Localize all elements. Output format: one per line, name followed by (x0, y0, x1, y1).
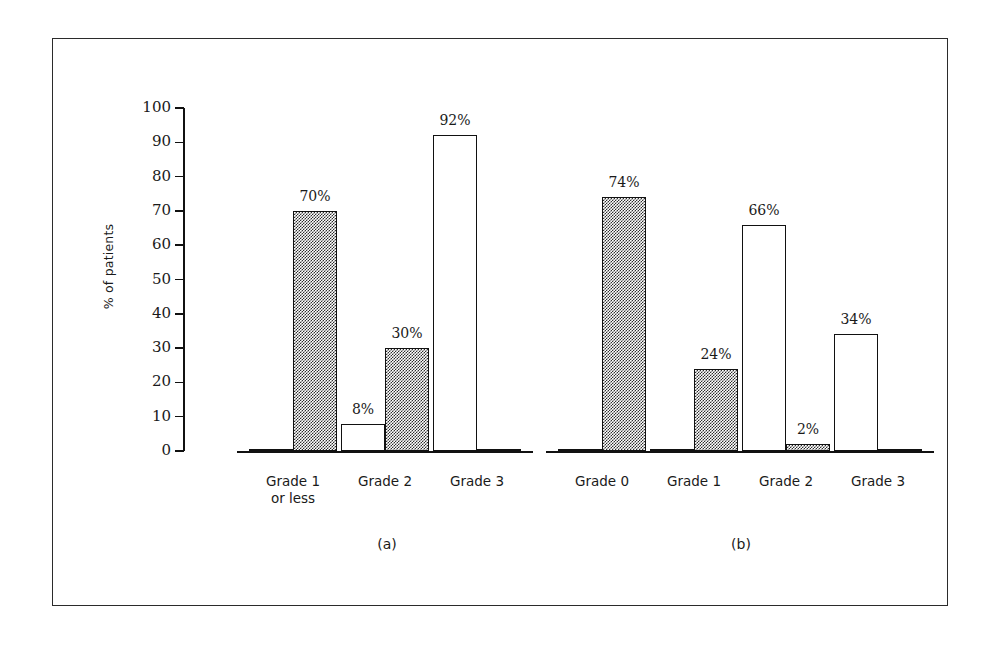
bar-open (433, 135, 477, 451)
bar-value-label: 8% (352, 402, 374, 416)
y-axis-tick-label-wrap: 100 (119, 108, 171, 109)
y-axis-tick (175, 313, 184, 315)
bar-value-label: 2% (797, 422, 819, 436)
bar-value-label: 34% (840, 312, 871, 326)
bar-open (742, 225, 786, 451)
y-axis-tick-label: 60 (127, 237, 171, 252)
y-axis-tick-label: 90 (127, 134, 171, 149)
y-axis-tick-label: 100 (127, 100, 171, 115)
y-axis-tick-label-wrap: 70 (119, 211, 171, 212)
y-axis-tick-label-wrap: 30 (119, 348, 171, 349)
plot-area: 1009080706050403020100 % of patients 70%… (53, 39, 949, 607)
bar-value-label: 66% (748, 203, 779, 217)
bar-shaded (786, 444, 830, 451)
y-axis-tick-label-wrap: 60 (119, 245, 171, 246)
y-axis-tick-label: 10 (127, 409, 171, 424)
bar-shaded (477, 449, 521, 451)
y-axis-tick (175, 107, 184, 109)
y-axis-tick-label-wrap: 0 (119, 451, 171, 452)
y-axis-tick-label-wrap: 50 (119, 280, 171, 281)
bar-value-label: 30% (391, 326, 422, 340)
y-axis-tick (175, 347, 184, 349)
y-axis-tick (175, 450, 184, 452)
y-axis-tick (175, 416, 184, 418)
y-axis-tick-label: 40 (127, 306, 171, 321)
figure-frame: 1009080706050403020100 % of patients 70%… (52, 38, 948, 606)
bar-shaded (293, 211, 337, 451)
bar-value-label: 24% (700, 347, 731, 361)
y-axis-tick-label-wrap: 10 (119, 417, 171, 418)
y-axis-tick-label: 20 (127, 374, 171, 389)
bar-value-label: 92% (439, 113, 470, 127)
y-axis-tick-label-wrap: 40 (119, 314, 171, 315)
bar-value-label: 74% (608, 175, 639, 189)
y-axis-tick (175, 142, 184, 144)
bar-value-label: 70% (299, 189, 330, 203)
bar-open (558, 449, 602, 451)
y-axis-tick (175, 279, 184, 281)
bar-shaded (385, 348, 429, 451)
y-axis-tick-label: 80 (127, 169, 171, 184)
x-axis-category-label: Grade 3 (407, 473, 547, 490)
y-axis-tick (175, 244, 184, 246)
group-baseline (822, 451, 934, 453)
panel-label: (b) (701, 536, 781, 552)
y-axis-tick-label: 70 (127, 203, 171, 218)
bar-open (249, 449, 293, 451)
y-axis-tick-label-wrap: 90 (119, 142, 171, 143)
bar-shaded (878, 449, 922, 451)
y-axis-tick (175, 176, 184, 178)
x-axis-category-label: Grade 3 (808, 473, 948, 490)
y-axis-tick-label: 0 (127, 443, 171, 458)
y-axis-tick-label: 50 (127, 272, 171, 287)
group-baseline (421, 451, 533, 453)
y-axis-tick (175, 210, 184, 212)
panel-label: (a) (347, 536, 427, 552)
y-axis-tick-label-wrap: 80 (119, 177, 171, 178)
y-axis-tick-label-wrap: 20 (119, 382, 171, 383)
bar-open (341, 424, 385, 451)
bar-open (650, 449, 694, 451)
y-axis-title: % of patients (101, 207, 116, 327)
bar-shaded (694, 369, 738, 451)
y-axis-tick (175, 382, 184, 384)
bar-shaded (602, 197, 646, 451)
y-axis-tick-label: 30 (127, 340, 171, 355)
bar-open (834, 334, 878, 451)
